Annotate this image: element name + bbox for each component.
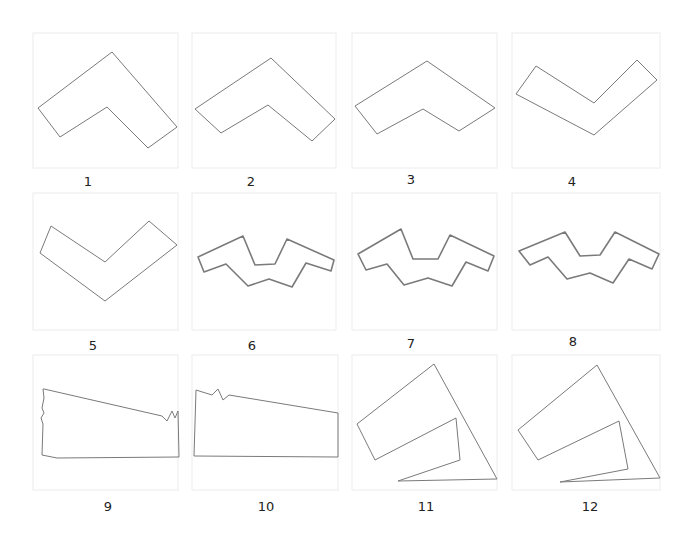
cell-label-10: 10	[258, 499, 275, 514]
cell-frame-1	[33, 33, 178, 168]
cell-frame-6	[192, 193, 336, 330]
polygon-4	[516, 60, 657, 135]
polygon-10	[194, 389, 338, 457]
cell-label-8: 8	[569, 334, 577, 349]
cell-frame-3	[352, 33, 497, 168]
cell-label-1: 1	[84, 174, 92, 189]
polygon-9	[41, 389, 179, 458]
cell-frame-7	[352, 193, 497, 330]
cell-label-7: 7	[407, 336, 415, 351]
cell-label-5: 5	[89, 338, 97, 353]
cell-frames	[33, 33, 660, 490]
polygon-5	[40, 221, 177, 301]
polygon-11	[357, 364, 497, 481]
polygon-1	[38, 52, 177, 148]
cell-frame-10	[192, 355, 338, 490]
cell-frame-11	[352, 355, 497, 490]
polygon-8	[519, 232, 659, 283]
cell-label-9: 9	[104, 499, 112, 514]
cell-label-2: 2	[247, 174, 255, 189]
cell-frame-9	[33, 355, 178, 490]
cell-label-6: 6	[248, 338, 256, 353]
polygon-2	[195, 58, 335, 141]
polygon-7	[358, 229, 494, 286]
figure-canvas: 1 2 3 4 5 6 7 8 9 10 11 12	[0, 0, 689, 547]
polygon-shapes	[38, 52, 660, 482]
cell-label-3: 3	[407, 172, 415, 187]
cell-frame-2	[192, 33, 336, 168]
cell-label-12: 12	[582, 499, 599, 514]
cell-label-11: 11	[418, 499, 435, 514]
cell-labels: 1 2 3 4 5 6 7 8 9 10 11 12	[84, 172, 598, 514]
cell-frame-8	[512, 193, 660, 330]
polygon-6	[198, 236, 334, 287]
cell-frame-12	[512, 355, 660, 490]
cell-frame-4	[512, 33, 660, 168]
polygon-3	[355, 61, 495, 134]
polygon-12	[518, 365, 660, 482]
cell-label-4: 4	[568, 174, 576, 189]
